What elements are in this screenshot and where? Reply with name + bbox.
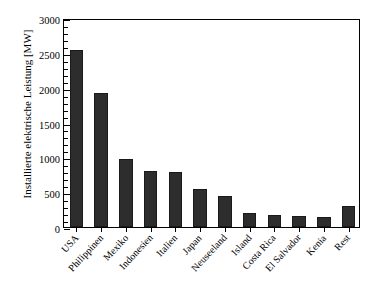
y-axis-minor-tick (64, 27, 68, 28)
y-axis-minor-tick (64, 152, 68, 153)
y-axis-minor-tick (64, 118, 68, 119)
bar (218, 196, 232, 227)
y-axis-minor-tick (64, 131, 68, 132)
plot-inner: 050010001500200025003000 (64, 20, 359, 227)
bar (144, 171, 158, 227)
bar (342, 206, 356, 227)
bar (169, 172, 183, 227)
x-axis-tick-label: Kenia (304, 232, 328, 257)
x-axis-tick-label: Rest (332, 232, 352, 253)
y-axis-tick-label: 3000 (39, 15, 60, 26)
y-axis-minor-tick (64, 173, 68, 174)
y-axis-minor-tick (64, 208, 68, 209)
x-axis-tick (349, 227, 350, 232)
y-axis-minor-tick (64, 215, 68, 216)
y-axis-tick-label: 500 (44, 189, 60, 200)
plot-area: 050010001500200025003000 (63, 19, 360, 228)
y-axis-minor-tick (64, 48, 68, 49)
y-axis-tick-label: 1500 (39, 119, 60, 130)
x-axis-tick (324, 227, 325, 232)
y-axis-tick (64, 20, 70, 21)
x-axis-tick (151, 227, 152, 232)
x-axis-tick (299, 227, 300, 232)
bar (243, 213, 257, 227)
chart-figure: Installierte elektrische Leistung [MW] 0… (0, 0, 379, 293)
y-axis-minor-tick (64, 145, 68, 146)
x-axis-tick (200, 227, 201, 232)
y-axis-minor-tick (64, 97, 68, 98)
y-axis-tick-label: 2500 (39, 49, 60, 60)
y-axis-minor-tick (64, 69, 68, 70)
bar (94, 93, 108, 227)
x-axis-tick (225, 227, 226, 232)
y-axis-minor-tick (64, 201, 68, 202)
y-axis-tick-label: 0 (55, 224, 60, 235)
y-axis-minor-tick (64, 41, 68, 42)
bar (317, 217, 331, 227)
bar (292, 216, 306, 227)
y-axis-title: Installierte elektrische Leistung [MW] (21, 9, 33, 219)
bar (70, 50, 84, 227)
y-axis-minor-tick (64, 62, 68, 63)
y-axis-minor-tick (64, 138, 68, 139)
x-axis-tick (76, 227, 77, 232)
y-axis-minor-tick (64, 104, 68, 105)
y-axis-tick-label: 2000 (39, 84, 60, 95)
bar (119, 159, 133, 227)
x-axis-tick-label: USA (59, 232, 81, 254)
y-axis-minor-tick (64, 187, 68, 188)
y-axis-minor-tick (64, 83, 68, 84)
y-axis-tick-label: 1000 (39, 154, 60, 165)
x-axis-tick-label: Italien (154, 232, 179, 258)
x-axis-tick (101, 227, 102, 232)
y-axis-minor-tick (64, 76, 68, 77)
bar (268, 215, 282, 227)
x-axis-tick (175, 227, 176, 232)
x-axis-tick (126, 227, 127, 232)
x-axis-tick (250, 227, 251, 232)
y-axis-minor-tick (64, 222, 68, 223)
y-axis-minor-tick (64, 166, 68, 167)
y-axis-tick (64, 229, 70, 230)
x-axis-tick (274, 227, 275, 232)
y-axis-minor-tick (64, 180, 68, 181)
y-axis-minor-tick (64, 34, 68, 35)
bar (193, 189, 207, 227)
y-axis-minor-tick (64, 111, 68, 112)
